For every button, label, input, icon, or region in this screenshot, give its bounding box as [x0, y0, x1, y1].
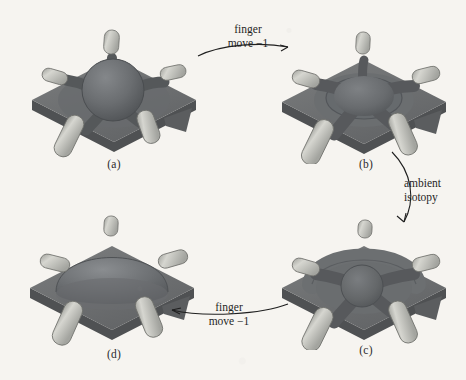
panel-b-render	[266, 14, 466, 164]
panel-d-caption: (d)	[94, 348, 134, 360]
arrow-c-to-d-label: finger move −1	[186, 300, 272, 329]
panel-b	[266, 14, 466, 164]
arrow-b-to-c-label-top: ambient	[404, 176, 466, 190]
panel-a-caption: (a)	[94, 158, 134, 170]
panel-c-caption: (c)	[346, 344, 386, 356]
arrow-a-to-b-label: finger move −1	[205, 22, 291, 51]
arrow-b-to-c-label-bottom: isotopy	[404, 190, 466, 204]
arrow-a-to-b-label-top: finger	[205, 22, 291, 36]
arrow-c-to-d-label-bottom: move −1	[186, 314, 272, 328]
arrow-c-to-d-label-top: finger	[186, 300, 272, 314]
panel-b-caption: (b)	[346, 158, 386, 170]
arrow-a-to-b-label-bottom: move −1	[205, 36, 291, 50]
panel-a	[14, 14, 214, 164]
panel-d-render	[14, 200, 214, 350]
panel-d	[14, 200, 214, 350]
panel-c-render	[266, 200, 466, 350]
panel-c	[266, 200, 466, 350]
figure-container: (a)	[0, 0, 466, 380]
panel-a-render	[14, 14, 214, 164]
arrow-b-to-c-label: ambient isotopy	[404, 176, 466, 205]
